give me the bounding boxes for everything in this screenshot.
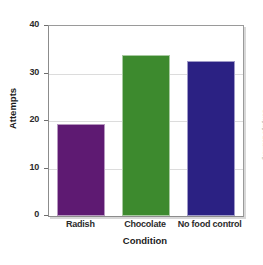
y-axis-tick-label: 40 [13,20,39,29]
bar [57,124,105,216]
y-axis-label: Attempts [7,79,18,139]
x-axis-tick-label: Chocolate [113,219,178,229]
x-axis-label: Condition [48,235,242,246]
bar [187,61,235,216]
y-axis-tick-label: 0 [13,210,39,219]
copyright-credit: © Cengage Learning [262,103,263,160]
bar-chart-figure: 010203040 Attempts RadishChocolateNo foo… [0,0,263,265]
y-axis-tick-label: 30 [13,68,39,77]
y-axis-tick-label: 10 [13,163,39,172]
bar [122,55,170,217]
plot-area [48,25,244,217]
x-axis-tick-label: No food control [177,219,242,229]
x-axis-tick-label: Radish [48,219,113,229]
